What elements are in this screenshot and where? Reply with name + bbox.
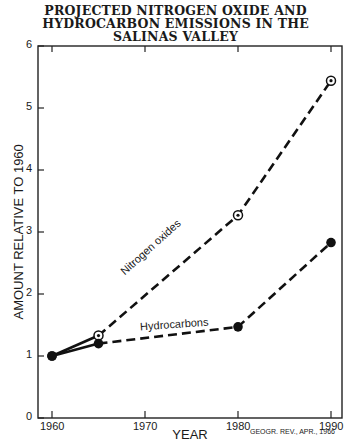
x-axis-label: YEAR xyxy=(150,427,230,442)
x-tick-label: 1990 xyxy=(319,420,343,432)
y-tick-label: 3 xyxy=(26,224,32,236)
y-axis-label: AMOUNT RELATIVE TO 1960 xyxy=(11,160,26,320)
x-tick-label: 1960 xyxy=(40,420,64,432)
x-tick-label: 1980 xyxy=(226,420,250,432)
y-tick-label: 4 xyxy=(26,162,32,174)
y-tick-label: 1 xyxy=(26,348,32,360)
y-tick-label: 6 xyxy=(26,38,32,50)
y-tick-label: 0 xyxy=(26,410,32,422)
axes-frame xyxy=(38,46,342,418)
y-tick-label: 5 xyxy=(26,100,32,112)
y-tick-label: 2 xyxy=(26,286,32,298)
x-tick-label: 1970 xyxy=(133,420,157,432)
